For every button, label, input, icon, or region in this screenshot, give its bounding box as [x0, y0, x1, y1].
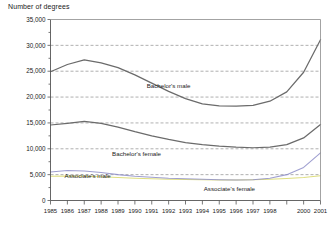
y-tick-label: 5,000	[30, 171, 46, 178]
data-series-group	[51, 40, 321, 180]
x-tick-label: 1986	[61, 208, 75, 214]
y-tick-label: 10,000	[26, 145, 46, 152]
y-tick-label: 35,000	[26, 16, 46, 23]
series-label: Bachelor's male	[147, 82, 191, 89]
series-label: Associate's male	[65, 172, 112, 179]
x-tick-label: 1987	[78, 208, 92, 214]
x-axis-tick-labels: 1985198619871988198919901991199219931994…	[44, 208, 328, 214]
y-tick-label: 20,000	[26, 93, 46, 100]
x-tick-label: 1992	[162, 208, 176, 214]
y-axis-tick-labels: 05,00010,00015,00020,00025,00030,00035,0…	[26, 16, 46, 204]
chart-container: Number of degrees 05,00010,00015,00020,0…	[0, 0, 330, 229]
y-tick-label: 0	[42, 197, 46, 204]
x-tick-label: 1988	[94, 208, 108, 214]
x-tick-label: 1985	[44, 208, 58, 214]
x-tick-label: 1994	[196, 208, 210, 214]
x-tick-label: 2001	[314, 208, 328, 214]
y-tick-label: 15,000	[26, 119, 46, 126]
x-axis-tickmarks	[51, 201, 321, 205]
series-line	[51, 40, 321, 106]
x-tick-label: 1995	[213, 208, 227, 214]
series-label: Bachelor's female	[112, 150, 162, 157]
series-annotation-labels: Bachelor's maleBachelor's femaleAssociat…	[65, 82, 256, 192]
series-label: Associate's female	[204, 185, 256, 192]
x-tick-label: 1997	[246, 208, 260, 214]
x-tick-label: 1990	[128, 208, 142, 214]
x-tick-label: 1998	[263, 208, 277, 214]
y-tick-label: 25,000	[26, 67, 46, 74]
line-chart-plot: 05,00010,00015,00020,00025,00030,00035,0…	[0, 0, 330, 229]
x-tick-label: 2000	[297, 208, 311, 214]
series-line	[51, 121, 321, 147]
y-tick-label: 30,000	[26, 42, 46, 49]
x-tick-label: 1991	[145, 208, 159, 214]
x-tick-label: 1996	[229, 208, 243, 214]
x-tick-label: 1993	[179, 208, 193, 214]
x-tick-label: 1989	[111, 208, 125, 214]
